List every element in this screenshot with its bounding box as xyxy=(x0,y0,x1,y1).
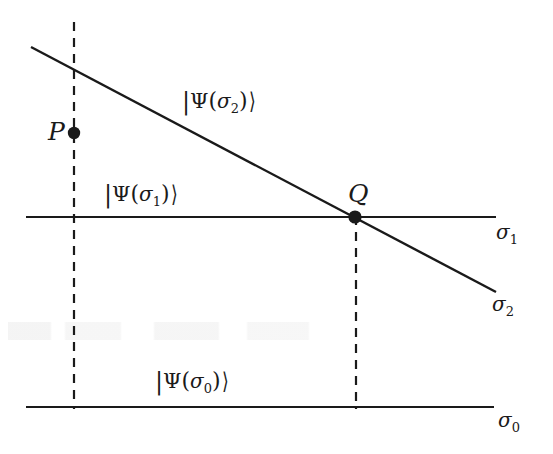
axis-label-sigma0: σ0 xyxy=(498,410,520,434)
state-label-sigma1: |Ψ(σ1)⟩ xyxy=(104,181,179,208)
point-marker-p xyxy=(68,127,80,139)
close-paren: ) xyxy=(161,181,170,206)
sigma-subscript: 1 xyxy=(510,232,518,247)
ket-bar: | xyxy=(182,89,190,113)
point-label-q: Q xyxy=(348,181,369,206)
state-label-sigma0: |Ψ(σ0)⟩ xyxy=(155,368,230,395)
close-paren: ) xyxy=(239,88,248,113)
hypersurface-line-sigma2 xyxy=(31,47,496,292)
ket-bar: | xyxy=(155,369,163,393)
psi-glyph: Ψ xyxy=(163,369,181,393)
axis-label-sigma2: σ2 xyxy=(492,294,514,318)
sigma-subscript: 2 xyxy=(506,304,514,319)
state-label-sigma2: |Ψ(σ2)⟩ xyxy=(182,88,257,115)
psi-glyph: Ψ xyxy=(190,89,208,113)
hypersurface-diagram: |Ψ(σ2)⟩ |Ψ(σ1)⟩ |Ψ(σ0)⟩ P Q σ1 σ2 σ0 xyxy=(0,0,553,454)
ket-bar: | xyxy=(104,182,112,206)
sigma-subscript: 0 xyxy=(512,420,520,435)
sigma-subscript: 0 xyxy=(204,381,212,396)
sigma-glyph: σ xyxy=(190,369,204,393)
open-paren: ( xyxy=(209,88,218,113)
ket-angle: ⟩ xyxy=(222,370,229,393)
point-marker-q xyxy=(348,210,361,223)
sigma-glyph: σ xyxy=(498,408,512,432)
diagram-canvas xyxy=(0,0,553,454)
close-paren: ) xyxy=(212,368,221,393)
open-paren: ( xyxy=(131,181,140,206)
ket-angle: ⟩ xyxy=(249,90,256,113)
point-label-p: P xyxy=(48,119,65,144)
sigma-glyph: σ xyxy=(217,89,231,113)
sigma-subscript: 2 xyxy=(231,101,239,116)
sigma-glyph: σ xyxy=(496,220,510,244)
axis-label-sigma1: σ1 xyxy=(496,222,518,246)
ket-angle: ⟩ xyxy=(171,183,178,206)
sigma-glyph: σ xyxy=(492,292,506,316)
open-paren: ( xyxy=(182,368,191,393)
sigma-glyph: σ xyxy=(139,182,153,206)
sigma-subscript: 1 xyxy=(153,194,161,209)
psi-glyph: Ψ xyxy=(112,182,130,206)
